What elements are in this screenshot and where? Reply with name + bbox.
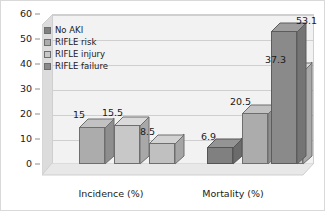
legend-label: No AKI	[55, 26, 83, 35]
data-label-incidence-rifle-failure: 8.5	[140, 127, 155, 137]
y-tick-mark	[35, 64, 40, 65]
data-label-mortality-rifle-risk: 20.5	[230, 97, 251, 107]
data-label-incidence-rifle-risk: 15	[73, 110, 85, 120]
y-tick-label-10: 10	[20, 134, 32, 144]
y-tick-label-60: 60	[20, 9, 32, 19]
chart-legend: No AKI RIFLE risk RIFLE injury RIFLE fai…	[44, 26, 108, 71]
legend-item-rifle-failure[interactable]: RIFLE failure	[44, 62, 108, 71]
x-category-label-incidence: Incidence (%)	[61, 189, 161, 199]
y-tick-mark	[35, 39, 40, 40]
y-tick-label-40: 40	[20, 59, 32, 69]
bar-mortality-rifle-failure	[271, 31, 297, 164]
y-tick-mark	[35, 164, 40, 165]
x-category-label-mortality: Mortality (%)	[183, 189, 283, 199]
bar-side-face	[175, 143, 184, 164]
bar-front-face	[79, 127, 105, 165]
bar-mortality-rifle-risk	[242, 113, 268, 164]
bar-incidence-rifle-failure	[149, 143, 175, 164]
y-tick-mark	[35, 89, 40, 90]
legend-label: RIFLE risk	[55, 38, 96, 47]
chart-container: 60 50 40 30 20 10 0	[0, 0, 325, 211]
legend-label: RIFLE failure	[55, 62, 108, 71]
legend-swatch-icon	[44, 39, 51, 46]
legend-item-rifle-risk[interactable]: RIFLE risk	[44, 38, 108, 47]
legend-swatch-icon	[44, 27, 51, 34]
bar-mortality-no-aki	[207, 147, 233, 164]
bar-side-face	[233, 147, 242, 164]
plot-area: 15 15.5 8.5 6.9 20.5 37.3 53.1 No AKI RI…	[42, 14, 314, 179]
bar-front-face	[114, 125, 140, 164]
legend-item-rifle-injury[interactable]: RIFLE injury	[44, 50, 108, 59]
legend-swatch-icon	[44, 63, 51, 70]
data-label-mortality-rifle-injury: 37.3	[265, 55, 286, 65]
legend-label: RIFLE injury	[55, 50, 105, 59]
data-label-incidence-rifle-injury: 15.5	[102, 108, 123, 118]
legend-swatch-icon	[44, 51, 51, 58]
data-label-mortality-rifle-failure: 53.1	[296, 16, 317, 26]
y-tick-mark	[35, 139, 40, 140]
y-axis: 60 50 40 30 20 10 0	[0, 0, 42, 211]
bar-front-face	[271, 31, 297, 164]
y-tick-mark	[35, 114, 40, 115]
y-tick-label-20: 20	[20, 109, 32, 119]
legend-item-no-aki[interactable]: No AKI	[44, 26, 108, 35]
y-tick-label-50: 50	[20, 34, 32, 44]
y-tick-mark	[35, 14, 40, 15]
bar-side-face	[297, 31, 306, 164]
plot-floor	[42, 163, 314, 180]
bar-front-face	[149, 143, 175, 164]
bar-front-face	[242, 113, 268, 164]
bar-incidence-rifle-risk	[79, 127, 105, 165]
data-label-mortality-no-aki: 6.9	[201, 132, 216, 142]
bar-front-face	[207, 147, 233, 164]
y-tick-label-0: 0	[26, 159, 32, 169]
y-tick-label-30: 30	[20, 84, 32, 94]
bar-incidence-rifle-injury	[114, 125, 140, 164]
bar-side-face	[105, 127, 114, 165]
